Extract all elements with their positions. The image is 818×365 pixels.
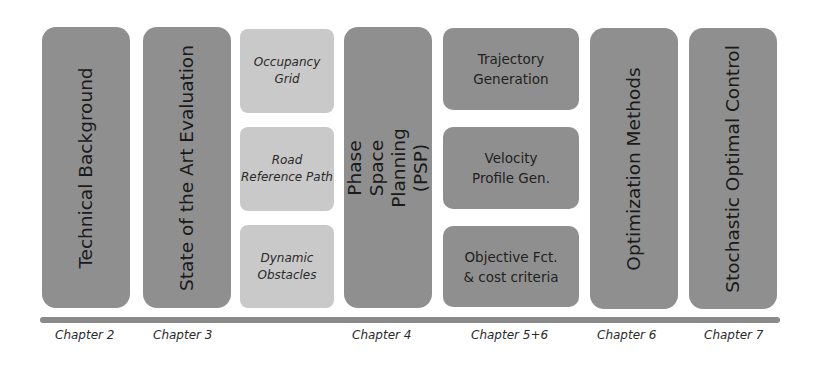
chapter-2-label: Chapter 2 — [55, 328, 114, 342]
occupancy-grid-block: Occupancy Grid — [240, 29, 334, 113]
road-reference-path-block: Road Reference Path — [240, 127, 334, 211]
chapter-5-6-label: Chapter 5+6 — [471, 328, 548, 342]
state-of-art-block: State of the Art Evaluation — [143, 27, 231, 308]
phase-space-planning-label: Phase Space Planning (PSP) — [344, 124, 432, 212]
objective-function-label: Objective Fct. & cost criteria — [463, 247, 558, 287]
optimization-methods-block: Optimization Methods — [590, 28, 678, 309]
velocity-profile-label: Velocity Profile Gen. — [472, 148, 550, 188]
chapter-7-label: Chapter 7 — [704, 328, 763, 342]
technical-background-label: Technical Background — [75, 67, 97, 268]
occupancy-grid-label: Occupancy Grid — [254, 54, 321, 88]
chapter-4-label: Chapter 4 — [352, 328, 411, 342]
stochastic-optimal-control-label: Stochastic Optimal Control — [722, 45, 744, 293]
trajectory-generation-block: Trajectory Generation — [443, 28, 579, 110]
velocity-profile-block: Velocity Profile Gen. — [443, 127, 579, 209]
road-reference-path-label: Road Reference Path — [241, 152, 333, 186]
dynamic-obstacles-block: Dynamic Obstacles — [240, 225, 334, 308]
optimization-methods-label: Optimization Methods — [623, 67, 645, 270]
stochastic-optimal-control-block: Stochastic Optimal Control — [689, 28, 777, 309]
chapter-3-label: Chapter 3 — [153, 328, 212, 342]
chapter-6-label: Chapter 6 — [597, 328, 656, 342]
phase-space-planning-block: Phase Space Planning (PSP) — [344, 27, 432, 308]
dynamic-obstacles-label: Dynamic Obstacles — [258, 250, 317, 284]
state-of-art-label: State of the Art Evaluation — [176, 45, 198, 291]
timeline-bar — [40, 317, 780, 323]
trajectory-generation-label: Trajectory Generation — [473, 49, 548, 89]
technical-background-block: Technical Background — [42, 27, 130, 308]
objective-function-block: Objective Fct. & cost criteria — [443, 226, 579, 307]
